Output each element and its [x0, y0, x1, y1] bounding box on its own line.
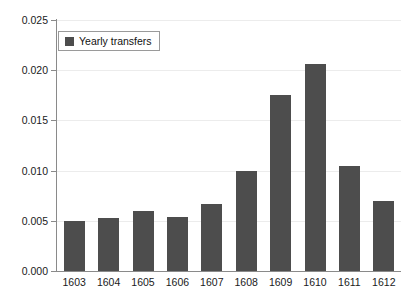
x-axis-tick-label: 1607 — [195, 277, 229, 288]
y-axis-tick-mark — [51, 271, 56, 272]
bar — [64, 221, 85, 271]
y-axis-tick-mark — [51, 70, 56, 71]
plot-area — [57, 20, 401, 271]
x-axis-tick-label: 1612 — [367, 277, 401, 288]
y-axis-tick-label: 0.010 — [2, 166, 48, 177]
y-axis-tick-label: 0.000 — [2, 266, 48, 277]
y-axis-tick-labels: 0.0000.0050.0100.0150.0200.025 — [0, 0, 48, 305]
x-axis-tick-label: 1610 — [298, 277, 332, 288]
x-axis-tick-label: 1609 — [263, 277, 297, 288]
y-axis-tick-label: 0.005 — [2, 216, 48, 227]
bar — [98, 218, 119, 271]
bar — [236, 171, 257, 271]
y-axis-tick-label: 0.020 — [2, 65, 48, 76]
x-axis-line — [56, 271, 401, 272]
bar — [270, 95, 291, 271]
x-axis-tick-label: 1604 — [91, 277, 125, 288]
bar — [339, 166, 360, 271]
y-axis-tick-label: 0.015 — [2, 115, 48, 126]
y-axis-tick-mark — [51, 120, 56, 121]
bar — [133, 211, 154, 271]
legend-entry-label: Yearly transfers — [79, 36, 152, 47]
x-axis-tick-label: 1611 — [332, 277, 366, 288]
gridline — [57, 70, 401, 71]
gridline — [57, 120, 401, 121]
bar — [167, 217, 188, 271]
y-axis-tick-mark — [51, 171, 56, 172]
y-axis-tick-label: 0.025 — [2, 15, 48, 26]
chart-legend: Yearly transfers — [58, 31, 160, 51]
x-axis-tick-label: 1606 — [160, 277, 194, 288]
x-axis-tick-label: 1603 — [57, 277, 91, 288]
x-axis-tick-label: 1605 — [126, 277, 160, 288]
bar — [373, 201, 394, 271]
x-axis-tick-label: 1608 — [229, 277, 263, 288]
bar — [201, 204, 222, 271]
y-axis-tick-mark — [51, 221, 56, 222]
legend-swatch-icon — [65, 37, 74, 46]
y-axis-tick-mark — [51, 20, 56, 21]
bar-chart: 0.0000.0050.0100.0150.0200.025 160316041… — [0, 0, 416, 305]
gridline — [57, 20, 401, 21]
bar — [305, 64, 326, 271]
